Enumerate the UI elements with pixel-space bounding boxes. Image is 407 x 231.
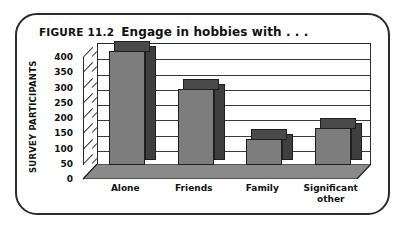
- bar-front-face: [109, 51, 145, 165]
- x-tick-label-line: Significant: [297, 183, 366, 194]
- x-tick-label: Alone: [91, 183, 160, 194]
- left-wall-rung: [83, 93, 93, 104]
- bar-significant-other: [315, 128, 351, 165]
- figure-title-text: Engage in hobbies with . . .: [121, 25, 308, 39]
- x-tick-label: Friends: [160, 183, 229, 194]
- figure-frame: FIGURE 11.2Engage in hobbies with . . . …: [15, 13, 390, 215]
- x-tick-label-line: Friends: [160, 183, 229, 194]
- y-tick-label: 50: [43, 159, 73, 168]
- plot-area: [83, 43, 371, 179]
- left-wall-rung: [83, 78, 93, 89]
- figure-number: FIGURE 11.2: [39, 26, 114, 38]
- x-axis-labels: AloneFriendsFamilySignificantother: [83, 183, 371, 209]
- bar-top-face: [183, 79, 219, 90]
- x-tick-label: Significantother: [297, 183, 366, 204]
- floor-shape: [83, 164, 371, 179]
- bar-front-face: [178, 89, 214, 165]
- left-wall-rung: [83, 47, 93, 58]
- bar-side-face: [145, 46, 156, 160]
- plot-left-wall: [83, 43, 97, 165]
- x-tick-label-line: other: [297, 194, 366, 205]
- left-wall-rung: [83, 62, 93, 73]
- left-wall-rung: [83, 108, 93, 119]
- y-tick-label: 300: [43, 83, 73, 92]
- x-tick-label-line: Family: [228, 183, 297, 194]
- y-tick-label: 400: [43, 53, 73, 62]
- y-tick-label: 250: [43, 98, 73, 107]
- y-tick-label: 0: [43, 175, 73, 184]
- y-tick-label: 200: [43, 114, 73, 123]
- left-wall-rung: [83, 139, 93, 150]
- bar-front-face: [315, 128, 351, 165]
- left-wall-rung: [83, 123, 93, 134]
- y-tick-label: 100: [43, 144, 73, 153]
- bar-alone: [109, 51, 145, 165]
- bar-chart: SURVEY PARTICIPANTS 05010015020025030035…: [27, 43, 382, 209]
- y-axis-ticks: 050100150200250300350400: [43, 43, 73, 179]
- y-tick-label: 350: [43, 68, 73, 77]
- bar-side-face: [214, 84, 225, 160]
- bar-front-face: [246, 139, 282, 165]
- y-axis-label: SURVEY PARTICIPANTS: [28, 63, 42, 173]
- plot-floor: [83, 164, 371, 179]
- bar-top-face: [251, 129, 287, 140]
- x-tick-label: Family: [228, 183, 297, 194]
- bar-top-face: [114, 41, 150, 52]
- bar-top-face: [320, 118, 356, 129]
- left-wall-rung: [83, 154, 93, 165]
- x-tick-label-line: Alone: [91, 183, 160, 194]
- bar-friends: [178, 89, 214, 165]
- figure-title: FIGURE 11.2Engage in hobbies with . . .: [39, 25, 308, 39]
- left-wall-edge: [83, 57, 84, 165]
- y-tick-label: 150: [43, 129, 73, 138]
- bar-family: [246, 139, 282, 165]
